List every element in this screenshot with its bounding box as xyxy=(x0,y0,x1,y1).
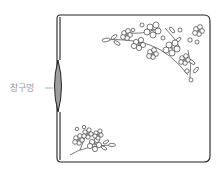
callout-label-opening: 창구멍 xyxy=(10,83,34,93)
floral-embroidery-top-right xyxy=(102,22,205,82)
floral-embroidery-bottom-left xyxy=(70,125,116,155)
opening xyxy=(55,60,62,112)
